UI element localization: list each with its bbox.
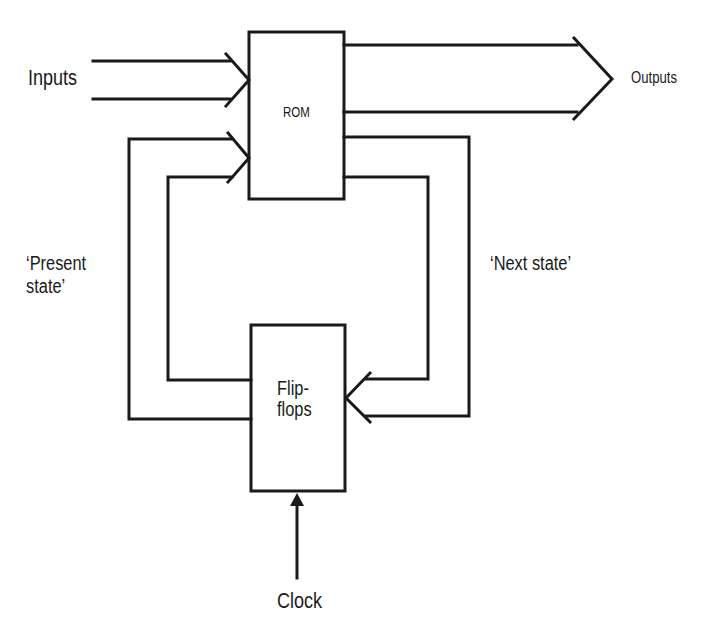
flipflops-label: Flip- flops — [277, 378, 312, 420]
present-state-label-line1: ‘Present — [26, 252, 86, 275]
present-state-bus-arrow — [129, 133, 251, 419]
clock-label: Clock — [277, 588, 322, 614]
outputs-label: Outputs — [631, 69, 677, 87]
next-state-bus-arrow — [344, 137, 469, 422]
next-state-label: ‘Next state’ — [490, 252, 571, 275]
flipflops-label-line1: Flip- — [277, 378, 312, 399]
present-state-label: ‘Present state’ — [26, 252, 86, 298]
present-state-label-line2: state’ — [26, 275, 86, 298]
outputs-bus-arrow — [344, 38, 612, 119]
rom-label: ROM — [283, 104, 310, 120]
flipflops-label-line2: flops — [277, 399, 312, 420]
clock-arrowhead-icon — [290, 493, 304, 506]
inputs-label: Inputs — [28, 65, 77, 91]
diagram-canvas — [0, 0, 703, 632]
inputs-bus-arrow — [93, 54, 249, 106]
